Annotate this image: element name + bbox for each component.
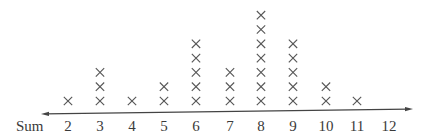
x-marker-icon bbox=[96, 97, 104, 105]
tick-label-5: 5 bbox=[160, 118, 168, 135]
tick-label-11: 11 bbox=[350, 118, 364, 135]
x-marker-icon bbox=[160, 97, 168, 105]
axis-label-sum: Sum bbox=[16, 118, 44, 135]
tick-label-2: 2 bbox=[64, 118, 72, 135]
left-arrow-icon bbox=[41, 112, 49, 116]
x-marker-icon bbox=[96, 83, 104, 91]
x-marker-icon bbox=[257, 54, 265, 62]
tick-label-8: 8 bbox=[257, 118, 265, 135]
tick-label-7: 7 bbox=[226, 118, 234, 135]
x-marker-icon bbox=[289, 97, 297, 105]
x-marker-icon bbox=[128, 97, 136, 105]
x-marker-icon bbox=[192, 54, 200, 62]
x-marker-icon bbox=[160, 83, 168, 91]
tick-label-4: 4 bbox=[128, 118, 136, 135]
x-marker-icon bbox=[192, 97, 200, 105]
x-marker-icon bbox=[257, 83, 265, 91]
tick-label-3: 3 bbox=[96, 118, 104, 135]
x-marker-icon bbox=[322, 97, 330, 105]
tick-label-6: 6 bbox=[192, 118, 200, 135]
x-marker-icon bbox=[353, 97, 361, 105]
tick-label-10: 10 bbox=[319, 118, 334, 135]
x-marker-icon bbox=[226, 83, 234, 91]
x-marker-icon bbox=[226, 97, 234, 105]
x-marker-icon bbox=[289, 54, 297, 62]
x-marker-icon bbox=[192, 40, 200, 48]
right-arrow-icon bbox=[405, 107, 413, 111]
x-marker-icon bbox=[96, 68, 104, 76]
x-marker-icon bbox=[289, 68, 297, 76]
x-marker-icon bbox=[226, 68, 234, 76]
x-marker-icon bbox=[192, 83, 200, 91]
x-marker-icon bbox=[64, 97, 72, 105]
x-marker-icon bbox=[192, 68, 200, 76]
tick-label-9: 9 bbox=[289, 118, 297, 135]
x-marker-icon bbox=[257, 97, 265, 105]
x-marker-icon bbox=[257, 25, 265, 33]
tick-label-12: 12 bbox=[382, 118, 397, 135]
x-marker-icon bbox=[257, 68, 265, 76]
x-marker-icon bbox=[257, 11, 265, 19]
x-marker-icon bbox=[322, 83, 330, 91]
x-marker-icon bbox=[289, 40, 297, 48]
x-marker-icon bbox=[257, 40, 265, 48]
number-line bbox=[45, 109, 408, 114]
x-marker-icon bbox=[289, 83, 297, 91]
